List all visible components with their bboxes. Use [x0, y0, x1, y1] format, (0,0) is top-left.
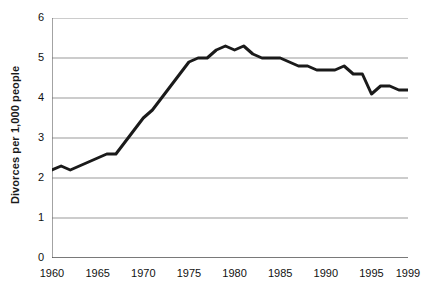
x-tick-label-1960: 1960	[32, 268, 72, 279]
x-tick-label-1990: 1990	[306, 268, 346, 279]
x-tick-label-1985: 1985	[260, 268, 300, 279]
x-tick-label-1980: 1980	[215, 268, 255, 279]
x-tick-label-1999: 1999	[388, 268, 428, 279]
divorce-rate-line-chart: Divorces per 1,000 people 0123456 196019…	[0, 0, 436, 297]
data-line-divorce-rate	[52, 46, 408, 170]
y-tick-label-4: 4	[22, 92, 44, 103]
y-tick-label-5: 5	[22, 52, 44, 63]
x-tick-label-1975: 1975	[169, 268, 209, 279]
x-tick-label-1970: 1970	[123, 268, 163, 279]
y-tick-label-6: 6	[22, 12, 44, 23]
y-tick-label-1: 1	[22, 212, 44, 223]
y-tick-label-0: 0	[22, 252, 44, 263]
x-tick-label-1965: 1965	[78, 268, 118, 279]
y-tick-label-2: 2	[22, 172, 44, 183]
x-tick-label-1995: 1995	[351, 268, 391, 279]
y-tick-label-3: 3	[22, 132, 44, 143]
plot-area	[52, 18, 408, 258]
y-axis-label-text: Divorces per 1,000 people	[9, 66, 21, 204]
chart-svg	[52, 18, 408, 258]
